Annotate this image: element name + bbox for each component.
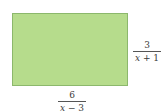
right-fraction-numerator: 3 — [142, 40, 152, 50]
right-fraction-denominator: x + 1 — [133, 53, 161, 63]
bottom-denominator-rest: − 3 — [65, 103, 84, 112]
green-rectangle — [12, 13, 128, 86]
right-denominator-rest: + 1 — [140, 53, 159, 63]
bottom-fraction-denominator: x − 3 — [58, 103, 86, 112]
right-fraction-bar — [133, 51, 161, 52]
right-side-length-fraction: 3 x + 1 — [133, 40, 161, 63]
bottom-fraction-numerator: 6 — [67, 90, 77, 100]
bottom-fraction-bar — [58, 101, 86, 102]
bottom-side-length-fraction: 6 x − 3 — [58, 90, 86, 112]
